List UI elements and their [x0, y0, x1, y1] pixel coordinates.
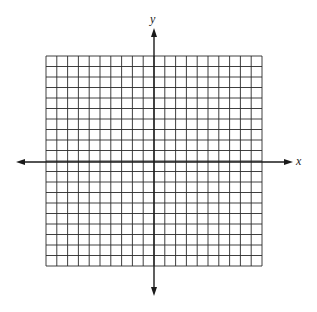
x-axis-left-arrowhead-icon — [16, 159, 25, 165]
coordinate-plane — [0, 0, 317, 312]
y-axis-up-arrowhead-icon — [151, 28, 157, 37]
x-axis-right-arrowhead-icon — [284, 159, 293, 165]
y-axis-label: y — [150, 13, 155, 25]
y-axis-down-arrowhead-icon — [151, 287, 157, 296]
x-axis-label: x — [296, 155, 301, 167]
